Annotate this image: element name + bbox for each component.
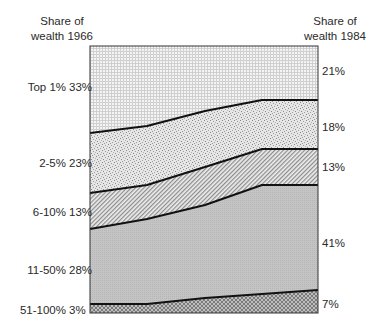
share-1966-6-10pct: 13% <box>69 205 89 219</box>
share-1966-11-50pct: 28% <box>69 263 89 277</box>
group-label-top-1pct: Top 1% <box>0 80 66 94</box>
share-1966-51-100pct: 3% <box>69 303 89 317</box>
group-label-2-5pct: 2-5% <box>0 156 66 170</box>
share-1984-51-100pct: 7% <box>322 297 339 311</box>
share-1966-2-5pct: 23% <box>69 156 89 170</box>
share-1966-top-1pct: 33% <box>69 80 89 94</box>
share-1984-2-5pct: 18% <box>322 120 345 134</box>
share-1984-top-1pct: 21% <box>322 64 345 78</box>
group-label-6-10pct: 6-10% <box>0 205 66 219</box>
share-1984-6-10pct: 13% <box>322 160 345 174</box>
share-1984-11-50pct: 41% <box>322 236 345 250</box>
group-label-11-50pct: 11-50% <box>0 263 66 277</box>
group-label-51-100pct: 51-100% <box>0 303 66 317</box>
